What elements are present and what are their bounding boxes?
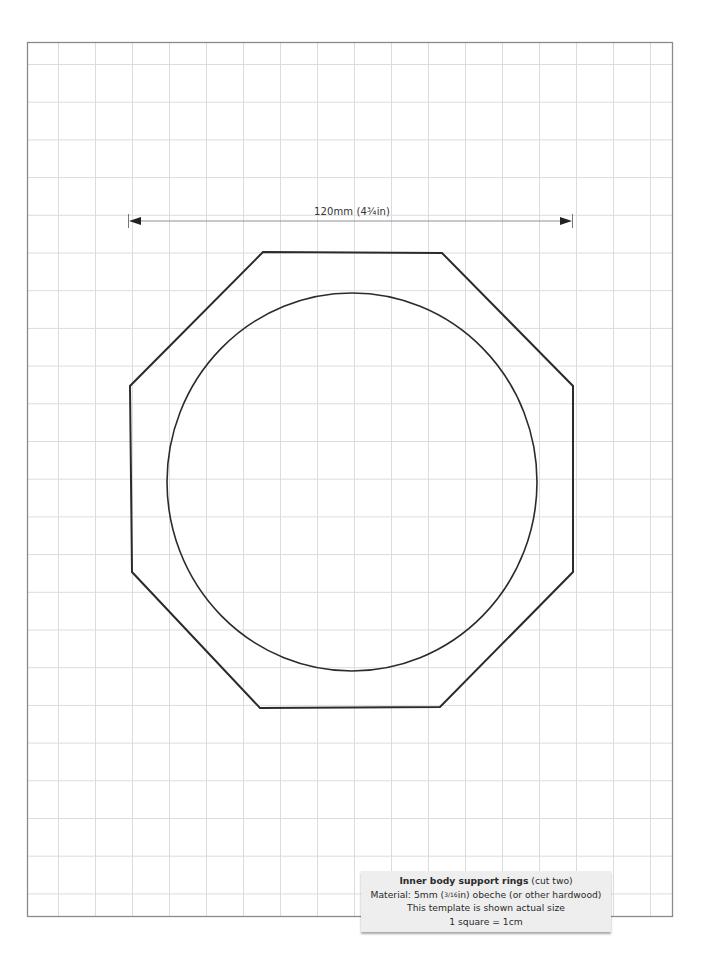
inner-circle-outline xyxy=(167,293,537,671)
caption-grid-note: 1 square = 1cm xyxy=(361,915,611,929)
octagon-outline xyxy=(130,252,573,708)
caption-box: Inner body support rings (cut two) Mater… xyxy=(361,871,611,932)
arrow-right-icon xyxy=(560,217,572,225)
grid-lines xyxy=(28,43,672,916)
arrow-left-icon xyxy=(129,217,141,225)
material-suffix: in) obeche (or other hardwood) xyxy=(458,889,602,900)
material-fraction: 3/16 xyxy=(444,891,457,898)
caption-title: Inner body support rings (cut two) xyxy=(361,874,611,888)
dimension-label: 120mm (4¾in) xyxy=(300,205,404,219)
caption-material: Material: 5mm (3/16in) obeche (or other … xyxy=(361,888,611,902)
caption-scale-note: This template is shown actual size xyxy=(361,901,611,915)
template-drawing xyxy=(0,0,708,954)
caption-title-rest: (cut two) xyxy=(528,875,572,886)
caption-title-bold: Inner body support rings xyxy=(399,875,528,886)
template-sheet: 120mm (4¾in) Inner body support rings (c… xyxy=(0,0,708,954)
material-prefix: Material: 5mm ( xyxy=(371,889,445,900)
